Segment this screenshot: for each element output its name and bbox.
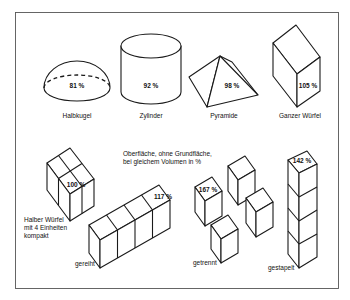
- row-arrangement-label: gereiht: [75, 260, 95, 268]
- surface-area-diagram: 81 % Halbkugel 92 % Zylinder 98 % Pyrami…: [0, 0, 350, 300]
- separated-value: 167 %: [199, 186, 218, 193]
- stacked-label: gestapelt: [268, 264, 295, 272]
- cube-shape: [273, 25, 320, 107]
- stacked-column-shape: [288, 151, 317, 268]
- separated-cube-3: [246, 188, 273, 237]
- separated-cube-4: [211, 215, 238, 263]
- half-sphere-shape: [44, 61, 110, 101]
- cube-value: 105 %: [299, 82, 318, 89]
- caption-line-1: Oberfläche, ohne Grundfläche,: [123, 150, 212, 157]
- separated-label: getrennt: [193, 259, 217, 267]
- row-arrangement-value: 117 %: [154, 193, 172, 200]
- cube-label: Ganzer Würfel: [279, 112, 321, 119]
- compact-block-label-1: Halber Würfel: [24, 216, 64, 223]
- caption-line-2: bei gleichem Volumen in %: [123, 158, 201, 166]
- cylinder-value: 92 %: [144, 82, 159, 89]
- pyramid-value: 98 %: [225, 82, 240, 89]
- compact-block-label-2: mit 4 Einheiten: [24, 224, 67, 231]
- pyramid-shape: [189, 56, 258, 107]
- half-sphere-value: 81 %: [70, 82, 85, 89]
- cylinder-label: Zylinder: [139, 112, 163, 120]
- stacked-value: 142 %: [293, 157, 312, 164]
- compact-block-label-3: kompakt: [24, 232, 49, 240]
- separated-cube-1: [195, 177, 222, 226]
- half-sphere-label: Halbkugel: [63, 112, 92, 120]
- cylinder-shape: [121, 34, 181, 104]
- compact-block-value: 100 %: [67, 181, 86, 188]
- pyramid-label: Pyramide: [210, 112, 238, 120]
